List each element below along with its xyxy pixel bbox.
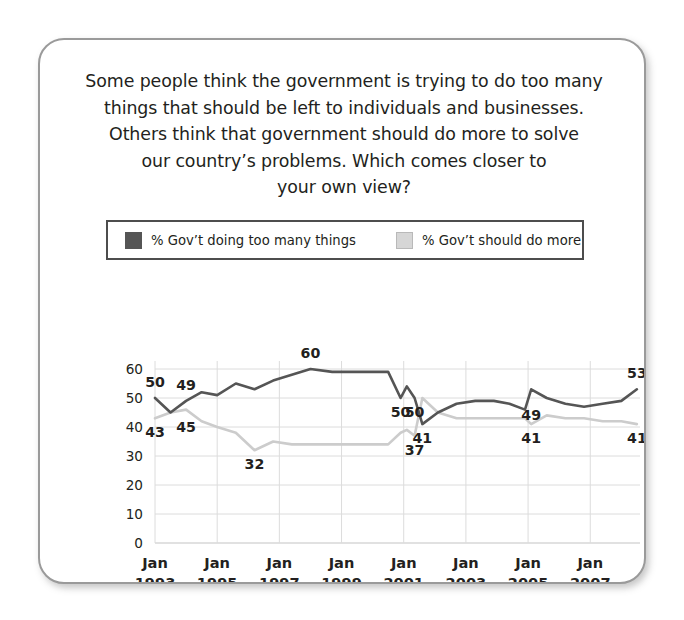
chart-svg: 0102030405060 Jan1993Jan1995Jan1997Jan19… bbox=[40, 292, 644, 582]
y-axis-labels: 0102030405060 bbox=[126, 361, 143, 551]
legend-label-light: % Gov’t should do more bbox=[422, 233, 581, 248]
y-tick-label-30: 30 bbox=[126, 448, 143, 464]
data-labels: 5049434560325037504149415341 bbox=[145, 345, 644, 472]
y-tick-label-0: 0 bbox=[134, 535, 143, 551]
data-label-dark-53-12: 53 bbox=[627, 365, 644, 381]
x-tick-month-1997: Jan bbox=[266, 554, 293, 571]
y-tick-label-10: 10 bbox=[126, 506, 143, 522]
x-tick-year-1995: 1995 bbox=[197, 574, 238, 582]
question-text: Some people think the government is tryi… bbox=[60, 68, 628, 201]
legend-entry-gov-too-many: % Gov’t doing too many things bbox=[125, 232, 356, 249]
screenshot-root: Some people think the government is tryi… bbox=[0, 0, 684, 620]
y-tick-label-20: 20 bbox=[126, 477, 143, 493]
x-tick-year-1993: 1993 bbox=[135, 574, 176, 582]
question-line-5: your own view? bbox=[60, 174, 628, 201]
legend-swatch-dark-icon bbox=[125, 232, 142, 249]
data-label-dark-50-8: 50 bbox=[405, 404, 425, 420]
x-tick-month-2003: Jan bbox=[452, 554, 479, 571]
data-label-dark-50-0: 50 bbox=[145, 374, 165, 390]
data-label-dark-49-1: 49 bbox=[176, 377, 196, 393]
y-tick-label-40: 40 bbox=[126, 419, 143, 435]
x-tick-year-2003: 2003 bbox=[446, 574, 487, 582]
data-label-dark-60-4: 60 bbox=[301, 345, 321, 361]
legend-swatch-light-icon bbox=[396, 232, 413, 249]
x-tick-month-1993: Jan bbox=[141, 554, 168, 571]
data-label-light-32-5: 32 bbox=[245, 456, 265, 472]
chart-legend: % Gov’t doing too many things % Gov’t sh… bbox=[106, 220, 584, 260]
x-tick-year-2007: 2007 bbox=[570, 574, 611, 582]
chart-card: Some people think the government is tryi… bbox=[38, 38, 646, 584]
x-tick-year-2005: 2005 bbox=[508, 574, 549, 582]
x-tick-month-1995: Jan bbox=[203, 554, 230, 571]
legend-entry-gov-do-more: % Gov’t should do more bbox=[396, 232, 581, 249]
question-line-2: things that should be left to individual… bbox=[60, 95, 628, 122]
x-tick-month-1999: Jan bbox=[328, 554, 355, 571]
data-label-light-41-13: 41 bbox=[627, 430, 644, 446]
line-chart-plot: 0102030405060 Jan1993Jan1995Jan1997Jan19… bbox=[40, 292, 644, 582]
x-tick-year-2001: 2001 bbox=[383, 574, 424, 582]
legend-label-dark: % Gov’t doing too many things bbox=[151, 233, 356, 248]
question-line-1: Some people think the government is tryi… bbox=[60, 68, 628, 95]
y-tick-label-60: 60 bbox=[126, 361, 143, 377]
data-label-light-43-2: 43 bbox=[145, 424, 165, 440]
x-tick-year-1999: 1999 bbox=[321, 574, 362, 582]
x-axis-labels: Jan1993Jan1995Jan1997Jan1999Jan2001Jan20… bbox=[135, 554, 611, 582]
x-tick-month-2005: Jan bbox=[514, 554, 541, 571]
question-line-3: Others think that government should do m… bbox=[60, 121, 628, 148]
y-tick-label-50: 50 bbox=[126, 390, 143, 406]
x-tick-month-2001: Jan bbox=[390, 554, 417, 571]
x-tick-year-1997: 1997 bbox=[259, 574, 300, 582]
x-tick-month-2007: Jan bbox=[576, 554, 603, 571]
data-label-dark-49-10: 49 bbox=[521, 407, 541, 423]
data-label-light-45-3: 45 bbox=[176, 419, 196, 435]
data-label-light-41-11: 41 bbox=[521, 430, 541, 446]
data-label-dark-41-9: 41 bbox=[412, 430, 432, 446]
question-line-4: our country’s problems. Which comes clos… bbox=[60, 148, 628, 175]
